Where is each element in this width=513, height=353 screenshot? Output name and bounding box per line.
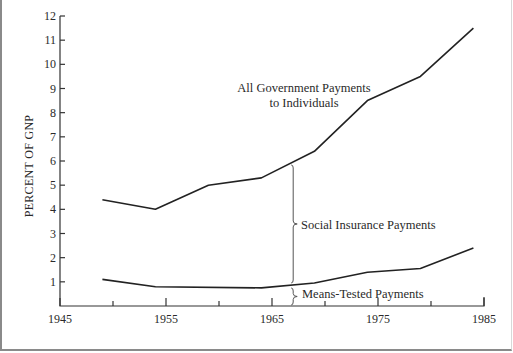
total-payments-label-line1: All Government Payments: [237, 81, 370, 95]
x-tick-label: 1955: [154, 312, 178, 326]
total-payments-label-line2: to Individuals: [269, 96, 338, 110]
y-tick-label: 6: [50, 154, 56, 168]
means-tested-line: [102, 248, 473, 288]
y-tick-label: 4: [50, 202, 56, 216]
y-axis-title: PERCENT OF GNP: [22, 115, 36, 218]
series-group: [102, 28, 473, 288]
x-tick-label: 1985: [472, 312, 496, 326]
y-tick-label: 7: [50, 130, 56, 144]
y-tick-label: 12: [44, 9, 56, 23]
y-tick-label: 3: [50, 227, 56, 241]
total-payments-line: [102, 28, 473, 209]
y-tick-label: 1: [50, 275, 56, 289]
means-tested-brace: [291, 288, 297, 305]
y-tick-label: 8: [50, 106, 56, 120]
y-tick-label: 2: [50, 251, 56, 265]
x-tick-label: 1975: [366, 312, 390, 326]
y-tick-label: 5: [50, 178, 56, 192]
axes: 12345678910111219451955196519751985: [44, 9, 496, 326]
y-tick-label: 11: [44, 33, 56, 47]
x-tick-label: 1965: [260, 312, 284, 326]
social-insurance-label: Social Insurance Payments: [301, 218, 436, 232]
social-insurance-brace: [291, 165, 297, 283]
y-tick-label: 10: [44, 57, 56, 71]
means-tested-label: Means-Tested Payments: [302, 287, 424, 301]
y-tick-label: 9: [50, 82, 56, 96]
x-tick-label: 1945: [48, 312, 72, 326]
line-chart: 12345678910111219451955196519751985 PERC…: [0, 0, 513, 353]
axis-lines: [60, 16, 484, 306]
